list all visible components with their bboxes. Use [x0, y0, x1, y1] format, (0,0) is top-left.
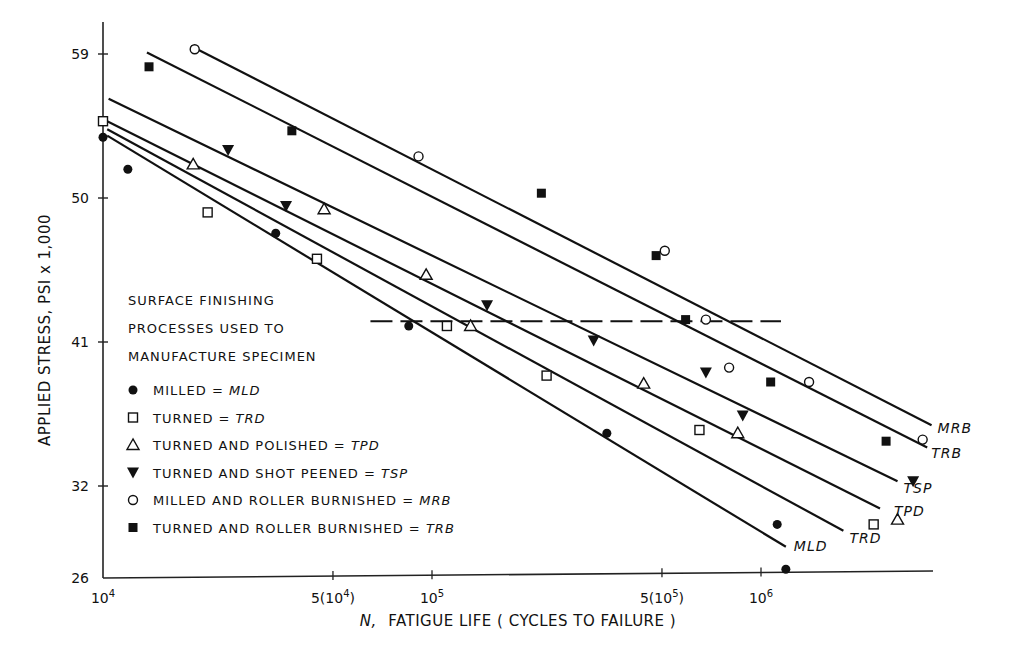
legend-marker-tpd — [127, 439, 139, 450]
x-tick-label: 104 — [91, 588, 115, 606]
data-point-mld — [404, 322, 413, 331]
data-point-mrb — [701, 315, 710, 324]
x-tick-label: 5(105) — [640, 588, 684, 606]
y-tick-label: 59 — [71, 46, 89, 62]
x-tick-label: 106 — [749, 588, 773, 606]
data-point-mld — [602, 429, 611, 438]
x-tick-label: 5(104) — [311, 588, 355, 606]
legend-entry-tsp: TURNED AND SHOT PEENED = TSP — [152, 466, 408, 481]
data-point-trb — [537, 189, 546, 198]
data-point-mld — [271, 229, 280, 238]
data-point-trb — [882, 437, 891, 446]
legend-entry-mld: MILLED = MLD — [153, 383, 260, 398]
legend-entry-tpd: TURNED AND POLISHED = TPD — [152, 438, 380, 453]
y-tick-label: 50 — [71, 190, 89, 206]
data-point-mrb — [190, 45, 199, 54]
data-point-trd — [542, 371, 551, 380]
data-point-tpd — [638, 378, 650, 389]
data-point-mrb — [414, 152, 423, 161]
y-tick-label: 41 — [71, 334, 89, 350]
axes: 59504132261045(104)1055(105)106 — [71, 22, 933, 606]
series-label-mld: MLD — [794, 538, 828, 554]
legend-marker-mrb — [129, 496, 138, 505]
data-point-mld — [123, 165, 132, 174]
data-point-trd — [312, 254, 321, 263]
data-point-trb — [681, 315, 690, 324]
chart-canvas: 59504132261045(104)1055(105)106 MLDTRDTP… — [0, 0, 1014, 667]
data-point-trd — [869, 520, 878, 529]
legend-marker-trd — [129, 413, 138, 422]
legend-marker-mld — [129, 386, 138, 395]
data-point-mrb — [725, 363, 734, 372]
y-tick-label: 26 — [71, 570, 89, 586]
legend-marker-tsp — [127, 468, 139, 479]
legend-entry-mrb: MILLED AND ROLLER BURNISHED = MRB — [153, 493, 451, 508]
data-point-trb — [145, 62, 154, 71]
legend-heading: SURFACE FINISHING — [128, 293, 275, 308]
data-point-trd — [695, 426, 704, 435]
data-point-tsp — [280, 201, 292, 212]
data-point-trd — [99, 117, 108, 126]
data-point-tsp — [700, 367, 712, 378]
data-point-tpd — [420, 269, 432, 280]
fit-line-trb — [147, 52, 927, 447]
y-tick-label: 32 — [71, 478, 89, 494]
fit-line-mld — [107, 136, 786, 547]
data-point-mld — [99, 133, 108, 142]
x-tick-label: 105 — [420, 588, 444, 606]
series-label-trb: TRB — [931, 445, 962, 461]
data-point-mrb — [918, 435, 927, 444]
data-point-mrb — [660, 246, 669, 255]
data-point-tsp — [737, 411, 749, 422]
data-point-tpd — [732, 427, 744, 438]
x-axis-title: N, FATIGUE LIFE ( CYCLES TO FAILURE ) — [360, 612, 676, 630]
data-point-trd — [203, 208, 212, 217]
legend-heading: MANUFACTURE SPECIMEN — [128, 349, 317, 364]
series-label-tsp: TSP — [904, 480, 933, 496]
y-axis-title: APPLIED STRESS, PSI x 1,000 — [36, 214, 54, 446]
data-point-trd — [442, 322, 451, 331]
data-point-tsp — [588, 335, 600, 346]
x-axis-line — [103, 571, 933, 578]
legend-marker-trb — [129, 523, 138, 532]
series-label-tpd: TPD — [894, 503, 925, 519]
data-point-trb — [766, 378, 775, 387]
data-point-trb — [287, 126, 296, 135]
data-point-mld — [773, 520, 782, 529]
data-point-tpd — [187, 158, 199, 169]
data-point-trb — [652, 251, 661, 260]
legend-entry-trd: TURNED = TRD — [152, 411, 266, 426]
data-point-mld — [781, 565, 790, 574]
series-label-mrb: MRB — [938, 420, 972, 436]
legend-entry-trb: TURNED AND ROLLER BURNISHED = TRB — [152, 521, 455, 536]
fatigue-life-chart: 59504132261045(104)1055(105)106 MLDTRDTP… — [0, 0, 1014, 667]
series-label-trd: TRD — [849, 530, 881, 546]
legend: SURFACE FINISHINGPROCESSES USED TOMANUFA… — [127, 293, 455, 536]
data-point-mrb — [805, 378, 814, 387]
legend-heading: PROCESSES USED TO — [128, 321, 285, 336]
